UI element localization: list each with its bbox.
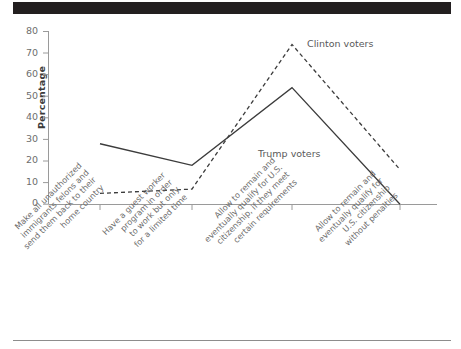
footer-divider <box>13 340 451 341</box>
chart-figure: Percentage 80 70 60 50 40 30 20 10 0 Cli… <box>0 0 461 349</box>
series-line-clinton-voters <box>100 44 400 193</box>
series-annotation-clinton-voters: Clinton voters <box>307 38 373 49</box>
